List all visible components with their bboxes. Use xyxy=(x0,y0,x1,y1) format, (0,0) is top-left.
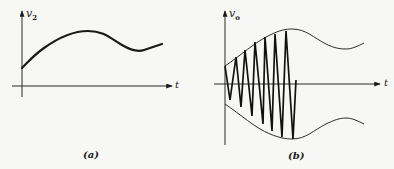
panel-b-t-axis-label: t xyxy=(384,78,388,88)
panel-b-caption: (b) xyxy=(288,151,304,161)
panel-a-caption: (a) xyxy=(83,150,99,160)
panel-a-signal-curve xyxy=(22,31,162,68)
panel-a-y-axis-label: v2 xyxy=(26,8,37,21)
panel-a xyxy=(12,11,172,97)
figure: v2 t (a) vo t (b) xyxy=(0,0,394,169)
panel-b-y-subscript: o xyxy=(235,13,240,22)
panel-a-t-axis-label: t xyxy=(175,80,179,90)
panel-b-y-axis-label: vo xyxy=(229,8,240,21)
panel-a-y-subscript: 2 xyxy=(32,13,37,22)
figure-graphics xyxy=(0,0,394,169)
panel-b xyxy=(214,11,380,145)
panel-b-modulated-carrier xyxy=(225,31,296,139)
